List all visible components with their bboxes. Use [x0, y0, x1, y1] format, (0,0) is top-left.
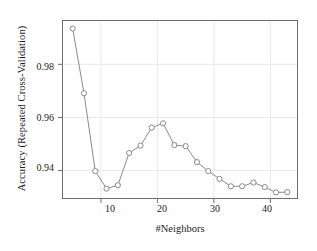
data-line — [73, 28, 288, 192]
plot-area — [0, 0, 317, 251]
data-markers — [70, 26, 290, 195]
chart-figure: Accuracy (Repeated Cross-Validation) #Ne… — [0, 0, 317, 251]
